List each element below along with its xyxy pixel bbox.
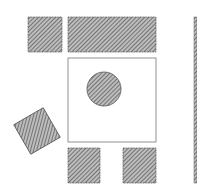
centerpiece: [87, 72, 121, 106]
chair-rotated: [14, 108, 60, 154]
chair-top-left: [28, 17, 62, 52]
chair-bottom-right: [123, 148, 156, 183]
chair-bottom-left: [68, 148, 100, 183]
floor-plan-diagram: [0, 0, 197, 190]
bench-top: [68, 17, 156, 52]
wall: [194, 17, 197, 183]
